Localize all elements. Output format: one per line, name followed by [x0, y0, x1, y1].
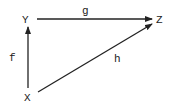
edge-label-g: g [82, 5, 89, 17]
node-y: Y [22, 14, 29, 26]
edge-label-f: f [9, 52, 16, 64]
node-z: Z [156, 14, 163, 26]
node-x: X [24, 92, 31, 104]
arrow-h [38, 24, 152, 92]
diagram-canvas: Y Z X g f h [0, 0, 173, 108]
edge-label-h: h [114, 53, 121, 65]
